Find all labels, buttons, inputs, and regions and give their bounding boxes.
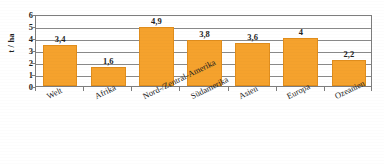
bar-slot: 2,2 xyxy=(325,16,373,86)
bar[interactable] xyxy=(235,43,270,86)
x-axis-tick-mark xyxy=(35,87,36,91)
x-axis-tick-mark xyxy=(371,87,372,91)
bar-slot: 1,6 xyxy=(84,16,132,86)
bar-value-label: 4 xyxy=(277,28,325,37)
bar-value-label: 4,9 xyxy=(132,17,180,26)
x-axis-tick-mark xyxy=(83,87,84,91)
bar-chart: t / ha 0123456 3,41,64,93,83,642,2 WeltA… xyxy=(0,0,384,164)
bar-slot: 4 xyxy=(277,16,325,86)
x-axis-category-labels: WeltAfrikaNord-/Zentral-AmerikaSüdamerik… xyxy=(35,92,372,162)
plot-area: 3,41,64,93,83,642,2 xyxy=(35,15,372,87)
bar-value-label: 3,6 xyxy=(229,33,277,42)
x-axis-tick-mark xyxy=(276,87,277,91)
bar-value-label: 3,8 xyxy=(180,30,228,39)
bar[interactable] xyxy=(283,38,318,86)
bar-value-label: 2,2 xyxy=(325,50,373,59)
x-axis-tick-mark xyxy=(324,87,325,91)
x-axis-tick-mark xyxy=(179,87,180,91)
bar-slot: 3,6 xyxy=(229,16,277,86)
bar-series: 3,41,64,93,83,642,2 xyxy=(36,16,371,86)
bar[interactable] xyxy=(43,45,78,86)
bar-value-label: 3,4 xyxy=(36,35,84,44)
y-axis-title: t / ha xyxy=(6,20,16,66)
x-axis-tick-mark xyxy=(131,87,132,91)
x-axis-tick-mark xyxy=(228,87,229,91)
bar-value-label: 1,6 xyxy=(84,57,132,66)
bar-slot: 3,4 xyxy=(36,16,84,86)
